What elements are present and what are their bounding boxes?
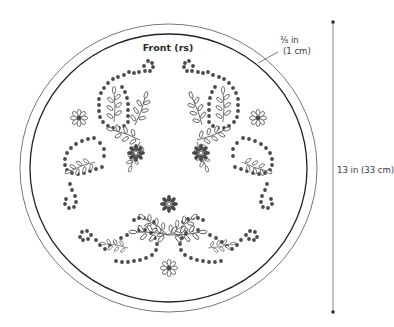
leaf-spray bbox=[99, 237, 129, 255]
diameter-label: 13 in (33 cm) bbox=[337, 165, 394, 175]
leaf-spray bbox=[207, 237, 237, 255]
leaf-spray bbox=[128, 89, 155, 128]
daisy-flower bbox=[249, 109, 266, 126]
dimension-endpoint-top bbox=[332, 21, 335, 24]
seam-allowance-imperial: ⅜ in bbox=[280, 35, 299, 45]
paisley-left bbox=[63, 59, 155, 210]
leaf-spray bbox=[239, 155, 274, 180]
daisy-flower-filled bbox=[127, 144, 145, 162]
leaf-spray bbox=[183, 89, 210, 128]
daisy-flower bbox=[70, 109, 87, 126]
daisy-flower-filled bbox=[192, 144, 210, 162]
daisy-flower bbox=[160, 259, 177, 276]
leaf-spray bbox=[106, 87, 122, 123]
seam-allowance-metric: (1 cm) bbox=[283, 46, 311, 56]
leaf-spray bbox=[62, 155, 97, 180]
paisley-right bbox=[182, 59, 274, 210]
daisy-flower-filled bbox=[160, 195, 178, 213]
dimension-endpoint-bottom bbox=[332, 311, 335, 314]
leaf-spray bbox=[215, 87, 231, 123]
wave-bottom-left bbox=[78, 216, 159, 264]
leaf-spray bbox=[104, 120, 143, 147]
